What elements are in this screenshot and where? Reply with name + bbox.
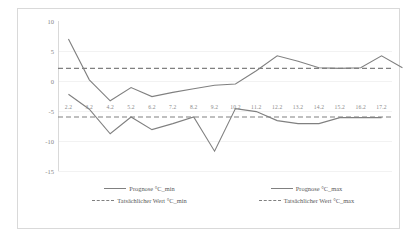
- x-axis-tick-label: 2.2: [65, 104, 73, 110]
- y-axis-tick-label: -5: [49, 108, 54, 115]
- y-axis-tick-label: -10: [45, 138, 54, 145]
- y-axis-tick-label: -15: [45, 168, 54, 175]
- x-axis-tick-label: 12.2: [272, 104, 283, 110]
- legend-label: Tatsächlicher Wert °C_min: [117, 197, 186, 204]
- x-axis-tick-label: 16.2: [355, 104, 366, 110]
- data-series-layer: [58, 21, 392, 171]
- x-axis-tick-label: 14.2: [314, 104, 325, 110]
- x-axis-tick-label: 4.2: [106, 104, 114, 110]
- x-axis-tick-label: 6.2: [148, 104, 156, 110]
- legend-label: Tatsächlicher Wert °C_max: [284, 197, 354, 204]
- legend-item[interactable]: Tatsächlicher Wert °C_min: [92, 197, 186, 204]
- legend-item[interactable]: Tatsächlicher Wert °C_max: [259, 197, 354, 204]
- chart-legend: Prognose °C_minPrognose °C_maxTatsächlic…: [58, 185, 388, 204]
- x-axis-tick-label: 17.2: [376, 104, 387, 110]
- x-axis-tick-label: 8.2: [190, 104, 198, 110]
- x-axis-tick-label: 3.2: [86, 104, 94, 110]
- y-axis-tick-label: 5: [51, 48, 54, 55]
- series-line: [68, 94, 381, 151]
- y-axis-tick-label: 0: [51, 78, 54, 85]
- x-axis-tick-label: 9.2: [211, 104, 219, 110]
- legend-item[interactable]: Prognose °C_max: [271, 185, 342, 192]
- x-axis-tick-label: 15.2: [335, 104, 346, 110]
- legend-label: Prognose °C_min: [129, 185, 174, 192]
- plot-area: 1050-5-10-15: [58, 21, 392, 171]
- x-axis-tick-label: 5.2: [127, 104, 135, 110]
- x-axis-tick-label: 11.2: [251, 104, 261, 110]
- x-axis-tick-label: 10.2: [230, 104, 241, 110]
- y-axis-tick-label: 10: [48, 18, 55, 25]
- chart-container: 1050-5-10-15 2.23.24.25.26.27.28.29.210.…: [17, 8, 400, 229]
- legend-key-solid-icon: [104, 188, 126, 189]
- gridline: [58, 171, 392, 172]
- x-axis-tick-label: 13.2: [293, 104, 304, 110]
- legend-item[interactable]: Prognose °C_min: [104, 185, 174, 192]
- legend-key-dashed-icon: [259, 200, 281, 201]
- x-axis-tick-label: 7.2: [169, 104, 177, 110]
- legend-key-solid-icon: [271, 188, 293, 189]
- legend-key-dashed-icon: [92, 200, 114, 201]
- series-line: [68, 39, 402, 101]
- x-axis-tick-labels: 2.23.24.25.26.27.28.29.210.211.212.213.2…: [58, 104, 392, 116]
- legend-label: Prognose °C_max: [296, 185, 342, 192]
